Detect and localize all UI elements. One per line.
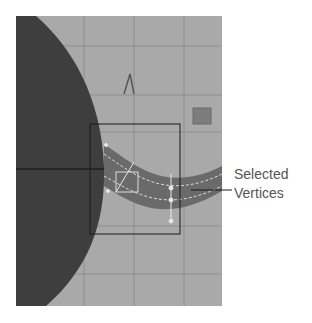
3d-viewport <box>16 16 222 306</box>
callout-line-1: Selected <box>234 165 288 184</box>
cube-object <box>193 108 211 124</box>
cursor-glyph-icon <box>124 74 134 94</box>
sphere-object <box>16 16 104 306</box>
callout-line-2: Vertices <box>234 184 288 203</box>
viewport-scene <box>16 16 222 306</box>
selected-vertices-callout: Selected Vertices <box>234 165 288 203</box>
tube-object <box>104 144 222 209</box>
